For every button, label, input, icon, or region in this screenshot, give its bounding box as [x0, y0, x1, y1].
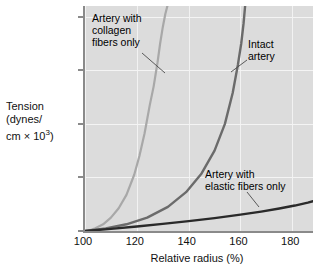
x-tick-label: 160 [218, 236, 258, 247]
y-axis-title-line-1: Tension [6, 100, 78, 113]
annotation-elastic: Artery with elastic fibers only [205, 168, 286, 192]
annotation-collagen: Artery with collagen fibers only [92, 12, 142, 48]
annotation-intact-artery: Intact artery [248, 38, 275, 62]
y-tick-mark [78, 230, 83, 232]
y-tick-mark [78, 69, 83, 71]
y-tick-mark [78, 123, 83, 125]
y-axis-title: Tension (dynes/ cm × 103) [6, 100, 78, 143]
y-axis-title-unit: cm × 10 [6, 130, 45, 142]
y-tick-mark [78, 16, 83, 18]
y-axis-title-line-2: (dynes/ [6, 113, 78, 126]
y-tick-mark [78, 176, 83, 178]
y-axis-title-paren: ) [50, 130, 54, 142]
x-tick-label: 100 [63, 236, 103, 247]
y-axis-title-line-3: cm × 103) [6, 126, 78, 143]
x-axis-title: Relative radius (%) [83, 252, 311, 264]
chart-figure: Tension (dynes/ cm × 103) 04080120160100… [0, 0, 323, 270]
x-tick-label: 140 [167, 236, 207, 247]
x-tick-label: 120 [115, 236, 155, 247]
x-tick-label: 180 [270, 236, 310, 247]
